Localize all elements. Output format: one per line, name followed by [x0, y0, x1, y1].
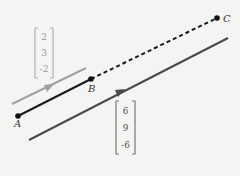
- lower-vector: 6 9 -6: [117, 102, 134, 153]
- upper-vector: 2 3 -2: [36, 29, 52, 77]
- lower-vector-z: -6: [121, 138, 130, 152]
- segment-ab: [18, 79, 91, 116]
- label-c: C: [223, 13, 231, 24]
- point-b: [88, 76, 94, 82]
- dashed-segment-bc: [91, 18, 217, 79]
- point-c: [214, 15, 220, 21]
- upper-vector-x: 2: [41, 30, 47, 44]
- lower-vector-x: 6: [123, 104, 129, 118]
- upper-vector-z: -2: [40, 62, 49, 76]
- upper-arrow-icon: [44, 84, 54, 92]
- label-a: A: [14, 118, 21, 129]
- upper-vector-y: 3: [41, 46, 47, 60]
- label-b: B: [88, 83, 95, 94]
- lower-vector-y: 9: [123, 121, 129, 135]
